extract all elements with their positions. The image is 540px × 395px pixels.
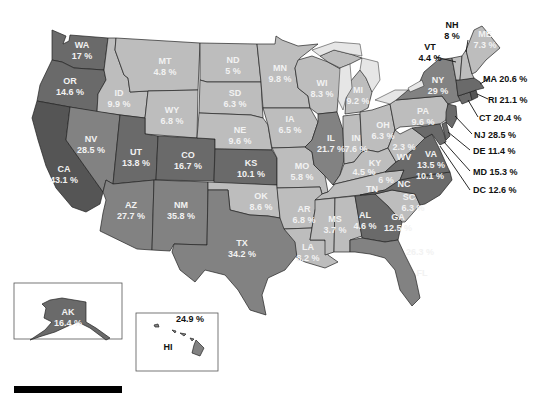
label-MI-code: MI: [353, 85, 363, 95]
label-ID-code: ID: [115, 88, 125, 98]
label-OH-value: 6.3 %: [371, 131, 394, 141]
state-NY[interactable]: [396, 58, 462, 104]
label-ME-value: 7.3 %: [473, 40, 496, 50]
label-TX-code: TX: [236, 238, 248, 248]
label-PA-code: PA: [417, 106, 429, 116]
label-NE-code: NE: [234, 125, 247, 135]
label-LA-value: 8.2 %: [296, 253, 319, 263]
label-WA-code: WA: [75, 40, 90, 50]
label-UT-value: 13.8 %: [122, 158, 150, 168]
scale-bar: [14, 386, 122, 393]
label-DE: DE 11.4 %: [473, 146, 516, 156]
label-NM-code: NM: [174, 200, 188, 210]
label-AR-code: AR: [298, 204, 311, 214]
label-OK-value: 8.6 %: [249, 202, 272, 212]
label-MO-value: 5.8 %: [290, 172, 313, 182]
label-IA-value: 6.5 %: [278, 125, 301, 135]
label-WI-code: WI: [317, 78, 328, 88]
label-PA-value: 9.6 %: [411, 117, 434, 127]
label-MT-value: 4.8 %: [153, 67, 176, 77]
label-AR-value: 6.8 %: [292, 215, 315, 225]
label-MI-value: 9.2 %: [346, 96, 369, 106]
label-WY-value: 6.8 %: [160, 116, 183, 126]
label-WV-value: 2.3 %: [392, 142, 415, 152]
label-MA: MA 20.6 %: [483, 74, 527, 84]
label-KS-code: KS: [245, 158, 258, 168]
label-NY-value: 29 %: [428, 86, 449, 96]
label-TX-value: 34.2 %: [228, 249, 256, 259]
label-TN-code: TN: [366, 184, 378, 194]
label-VT-code: VT: [424, 42, 436, 52]
label-UT-code: UT: [130, 147, 142, 157]
label-AL-value: 4.6 %: [353, 221, 376, 231]
label-GA-value: 12.5 %: [384, 223, 412, 233]
label-ID-value: 9.9 %: [107, 99, 130, 109]
label-CO-code: CO: [181, 150, 195, 160]
label-FL-value: 26.3 %: [406, 247, 434, 257]
label-IL-code: IL: [327, 133, 336, 143]
label-HI-value: 24.9 %: [176, 314, 204, 324]
leader-RI: [477, 94, 488, 99]
label-MN-value: 9.8 %: [268, 74, 291, 84]
label-ND-code: ND: [227, 55, 240, 65]
label-ND-value: 5 %: [225, 66, 241, 76]
label-VT-value: 4.4 %: [418, 53, 441, 63]
label-WV-code: WV: [397, 152, 412, 162]
label-CA-value: 43.1 %: [50, 175, 78, 185]
label-FL-code: FL: [417, 268, 428, 278]
label-SD-code: SD: [229, 88, 242, 98]
label-RI: RI 21.1 %: [488, 95, 528, 105]
label-MS-code: MS: [328, 214, 342, 224]
label-WI-value: 8.3 %: [310, 89, 333, 99]
label-ME-code: ME: [478, 29, 492, 39]
label-SC-value: 6.3 %: [401, 203, 424, 213]
label-NJ: NJ 28.5 %: [474, 130, 516, 140]
label-KS-value: 10.1 %: [237, 169, 265, 179]
label-AL-code: AL: [359, 210, 371, 220]
label-CO-value: 16.7 %: [174, 161, 202, 171]
label-GA-code: GA: [391, 212, 405, 222]
label-MS-value: 3.7 %: [323, 225, 346, 235]
label-AZ-code: AZ: [125, 200, 137, 210]
label-OR-value: 14.6 %: [56, 87, 84, 97]
label-MD: MD 15.3 %: [473, 167, 518, 177]
label-OR-code: OR: [63, 76, 77, 86]
label-VA-code: VA: [425, 149, 437, 159]
label-SC-code: SC: [403, 192, 416, 202]
label-SD-value: 6.3 %: [223, 99, 246, 109]
leader-NJ: [455, 116, 472, 134]
label-CT: CT 20.4 %: [479, 113, 522, 123]
label-AK-code: AK: [62, 307, 75, 317]
label-NH-value: 8 %: [444, 31, 460, 41]
label-NV-code: NV: [85, 134, 98, 144]
label-MT-code: MT: [159, 56, 172, 66]
leader-DE: [448, 132, 470, 150]
label-IN-code: IN: [352, 133, 361, 143]
label-NC-code: NC: [398, 179, 411, 189]
label-AK-value: 16.4 %: [54, 318, 82, 328]
label-CA-code: CA: [58, 164, 71, 174]
label-MO-code: MO: [295, 161, 310, 171]
label-VA-value: 13.5 %: [417, 160, 445, 170]
label-OH-code: OH: [376, 120, 390, 130]
label-NY-code: NY: [432, 75, 445, 85]
label-NE-value: 9.6 %: [228, 136, 251, 146]
label-NV-value: 28.5 %: [77, 145, 105, 155]
leader-CT: [468, 100, 478, 117]
label-MN-code: MN: [273, 63, 287, 73]
label-WY-code: WY: [165, 105, 180, 115]
label-NM-value: 35.8 %: [167, 211, 195, 221]
label-IN-value: 7.6 %: [344, 144, 367, 154]
label-WA-value: 17 %: [72, 51, 93, 61]
label-TN-value: 6 %: [378, 175, 394, 185]
label-IA-code: IA: [286, 114, 296, 124]
us-choropleth-map: WA 17 % OR 14.6 % CA 43.1 % ID 9.9 % NV …: [0, 0, 540, 395]
label-KY-value: 4.5 %: [352, 167, 375, 177]
label-NH-code: NH: [446, 20, 459, 30]
label-OK-code: OK: [254, 191, 268, 201]
label-IL-value: 21.7 %: [317, 144, 345, 154]
label-DC: DC 12.6 %: [473, 185, 517, 195]
label-HI-code: HI: [164, 342, 173, 352]
label-AZ-value: 27.7 %: [117, 211, 145, 221]
label-NC-value: 10.1 %: [416, 171, 444, 181]
